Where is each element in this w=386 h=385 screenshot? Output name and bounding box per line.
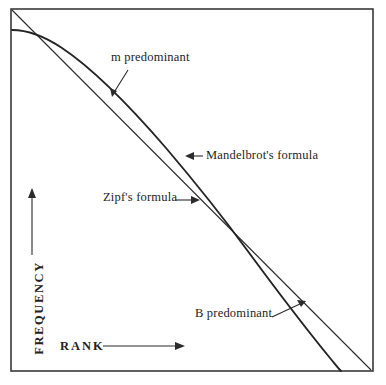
b-predominant-arrow xyxy=(272,300,306,317)
annotation-b-predominant: B predominant xyxy=(195,306,272,321)
zipf-line xyxy=(12,10,371,370)
rank-arrow xyxy=(103,342,185,350)
x-axis-label: RANK xyxy=(60,339,105,354)
y-axis-label: FREQUENCY xyxy=(32,258,47,358)
mandelbrot-arrow xyxy=(185,152,203,160)
zipf-arrow xyxy=(175,196,200,204)
frequency-arrow xyxy=(28,188,36,255)
zipf-mandelbrot-figure: m predominant Mandelbrot's formula Zipf'… xyxy=(0,0,386,385)
annotation-mandelbrot-formula: Mandelbrot's formula xyxy=(206,148,318,163)
plot-canvas xyxy=(0,0,386,385)
annotation-zipf-formula: Zipf's formula xyxy=(103,190,177,205)
annotation-m-predominant: m predominant xyxy=(111,50,190,65)
m-predominant-arrow xyxy=(110,70,128,97)
